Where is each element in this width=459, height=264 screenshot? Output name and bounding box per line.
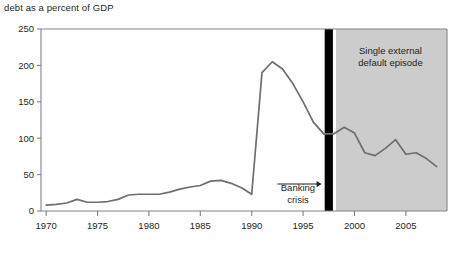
y-tick-label: 150 [18, 96, 34, 107]
line-chart-plot: 050100150200250 197019751980198519901995… [0, 0, 459, 264]
chart-figure: debt as a percent of GDP 050100150200250… [0, 0, 459, 264]
banking-crisis-label: Banking [281, 182, 315, 193]
x-tick-label: 1995 [293, 220, 314, 231]
x-tick-label: 1985 [190, 220, 211, 231]
x-tick-label: 2005 [395, 220, 416, 231]
default-episode-label: default episode [358, 57, 422, 68]
x-tick-label: 1980 [138, 220, 159, 231]
banking-crisis-bar [325, 29, 333, 211]
y-axis-ticks: 050100150200250 [18, 23, 41, 216]
y-tick-label: 50 [23, 169, 34, 180]
banking-crisis-label: crisis [287, 194, 309, 205]
x-tick-label: 1975 [87, 220, 108, 231]
default-episode-label: Single external [359, 45, 422, 56]
x-tick-label: 1970 [36, 220, 57, 231]
y-tick-label: 250 [18, 23, 34, 34]
x-tick-label: 2000 [344, 220, 365, 231]
y-tick-label: 100 [18, 133, 34, 144]
y-tick-label: 0 [29, 205, 34, 216]
annotation-arrow-head [317, 181, 322, 187]
y-tick-label: 200 [18, 60, 34, 71]
x-tick-label: 1990 [241, 220, 262, 231]
x-axis-ticks: 19701975198019851990199520002005 [36, 211, 417, 231]
